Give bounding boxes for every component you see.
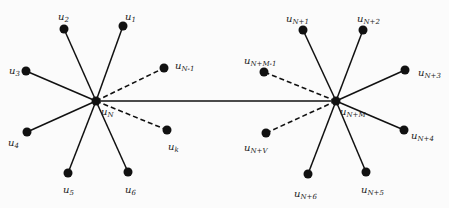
- label-u2: u2: [58, 12, 69, 24]
- label-uN: uN: [101, 107, 114, 119]
- edge-u3: [26, 71, 96, 101]
- node-u6: [124, 168, 133, 177]
- edge-uN+1: [303, 30, 336, 101]
- node-u5: [64, 169, 73, 178]
- label-uN-1: uN-1: [175, 61, 194, 73]
- edge-u2: [64, 29, 96, 101]
- node-u3: [22, 67, 31, 76]
- label-u4: u4: [8, 138, 19, 150]
- node-uN-1: [160, 64, 169, 73]
- label-u6: u6: [125, 185, 136, 197]
- edges-layer: [0, 0, 449, 208]
- label-uN+4: uN+4: [411, 131, 434, 143]
- hub-node-uNM: [332, 97, 341, 106]
- node-uN+1: [299, 26, 308, 35]
- label-uN+5: uN+5: [361, 185, 384, 197]
- label-uNM: uN+M: [340, 107, 366, 119]
- network-diagram: u2u1u3uN-1u4uku5u6uN+1uN+2uN+M-1uN+3uN+V…: [0, 0, 449, 208]
- label-u5: u5: [63, 185, 74, 197]
- label-uN+3: uN+3: [418, 68, 441, 80]
- label-u3: u3: [9, 66, 20, 78]
- label-uN+2: uN+2: [357, 14, 380, 26]
- label-uN+1: uN+1: [286, 14, 309, 26]
- node-uN+6: [304, 170, 313, 179]
- node-uN+2: [359, 26, 368, 35]
- hub-node-uN: [92, 97, 101, 106]
- node-uN+M-1: [260, 68, 269, 77]
- label-uk: uk: [168, 142, 179, 154]
- label-uN+6: uN+6: [294, 189, 317, 201]
- label-uN+V: uN+V: [244, 143, 268, 155]
- node-uN+4: [400, 126, 409, 135]
- node-u2: [60, 25, 69, 34]
- label-uN+M-1: uN+M-1: [244, 56, 276, 68]
- node-uN+V: [262, 129, 271, 138]
- node-uN+3: [401, 66, 410, 75]
- node-uk: [163, 126, 172, 135]
- node-u4: [23, 128, 32, 137]
- label-u1: u1: [125, 12, 136, 24]
- node-uN+5: [362, 168, 371, 177]
